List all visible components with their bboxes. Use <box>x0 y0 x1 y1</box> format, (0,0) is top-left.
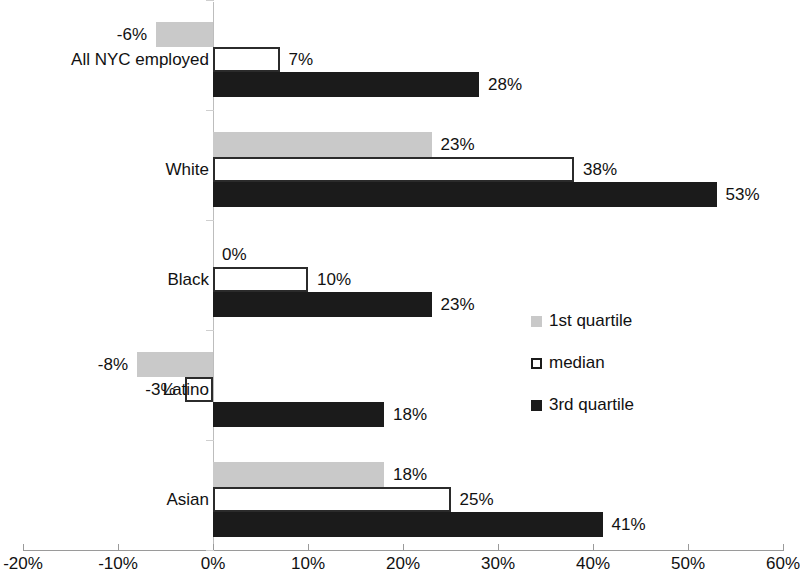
category-tick <box>206 220 214 221</box>
bar-value-label: -6% <box>117 25 147 45</box>
x-tick-label: 20% <box>386 554 420 574</box>
bar-value-label: -8% <box>98 355 128 375</box>
x-tick-label: 50% <box>671 554 705 574</box>
bar-q3 <box>213 402 384 427</box>
category-tick <box>206 550 214 551</box>
x-tick <box>308 544 309 551</box>
x-tick-label: 10% <box>291 554 325 574</box>
bar-q3 <box>213 182 717 207</box>
category-tick <box>206 440 214 441</box>
x-tick-label: 0% <box>201 554 226 574</box>
bar-value-label: 0% <box>222 245 247 265</box>
legend-label: 3rd quartile <box>549 395 634 415</box>
legend-swatch-icon <box>531 400 542 411</box>
bar-q1 <box>156 22 213 47</box>
bar-med <box>213 47 280 72</box>
legend-swatch-icon <box>531 316 542 327</box>
category-tick <box>206 0 214 1</box>
bar-q3 <box>213 512 603 537</box>
x-tick <box>593 544 594 551</box>
bar-value-label: 18% <box>393 465 427 485</box>
bar-value-label: 23% <box>441 135 475 155</box>
legend-item[interactable]: 3rd quartile <box>531 384 634 426</box>
category-label: Black <box>167 270 209 290</box>
bar-value-label: 10% <box>317 270 351 290</box>
plot-area: -20%-10%0%10%20%30%40%50%60% All NYC emp… <box>0 0 799 550</box>
bar-value-label: -3% <box>145 380 175 400</box>
bar-q1 <box>213 132 432 157</box>
x-tick-label: -20% <box>3 554 43 574</box>
x-tick <box>23 544 24 551</box>
x-tick <box>118 544 119 551</box>
legend-item[interactable]: median <box>531 342 634 384</box>
bar-value-label: 28% <box>488 75 522 95</box>
bar-value-label: 18% <box>393 405 427 425</box>
bar-med <box>213 157 574 182</box>
bar-q3 <box>213 72 479 97</box>
bar-q1 <box>137 352 213 377</box>
x-tick <box>403 544 404 551</box>
legend-item[interactable]: 1st quartile <box>531 300 634 342</box>
x-tick-label: 40% <box>576 554 610 574</box>
bar-med <box>213 267 308 292</box>
x-tick <box>688 544 689 551</box>
chart-legend: 1st quartilemedian3rd quartile <box>531 300 634 426</box>
bar-q3 <box>213 292 432 317</box>
x-tick-label: 30% <box>481 554 515 574</box>
bar-value-label: 53% <box>726 185 760 205</box>
category-label: Asian <box>166 490 209 510</box>
category-tick <box>206 110 214 111</box>
category-label: All NYC employed <box>71 50 209 70</box>
category-label: White <box>166 160 209 180</box>
bar-value-label: 25% <box>460 490 494 510</box>
bar-value-label: 23% <box>441 295 475 315</box>
x-tick <box>498 544 499 551</box>
bar-med <box>213 487 451 512</box>
x-tick-label: 60% <box>766 554 800 574</box>
legend-label: median <box>549 353 605 373</box>
legend-label: 1st quartile <box>549 311 632 331</box>
legend-swatch-icon <box>531 358 542 369</box>
bar-value-label: 38% <box>583 160 617 180</box>
category-tick <box>206 330 214 331</box>
x-tick-label: -10% <box>98 554 138 574</box>
bar-value-label: 7% <box>289 50 314 70</box>
bar-value-label: 41% <box>612 515 646 535</box>
x-tick <box>783 544 784 551</box>
bar-q1 <box>213 462 384 487</box>
